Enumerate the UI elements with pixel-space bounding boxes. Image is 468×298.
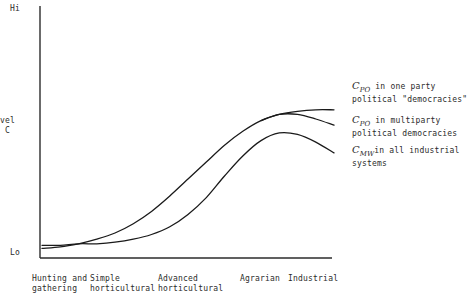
annotation-line1: in all industrial <box>374 146 459 155</box>
x-axis-tick-label-advanced-horticultural: Advancedhorticultural <box>158 274 223 293</box>
series-annotation-cpo-one-party: CPO in one partypolitical "democracies" <box>352 81 467 105</box>
x-tick-line1: Simple <box>90 274 120 283</box>
symbol-subscript: PO <box>360 86 370 94</box>
series-line-cmw <box>42 132 334 245</box>
symbol-letter: C <box>352 114 360 125</box>
y-axis-title: evelf C <box>0 116 15 136</box>
x-axis-tick-label-hunting-and-gathering: Hunting andgathering <box>32 274 87 293</box>
series-symbol-c: CPO <box>352 114 370 125</box>
x-tick-line1: Industrial <box>288 274 338 283</box>
y-axis-title-line1: evel <box>0 116 15 125</box>
series-symbol-c: CPO <box>352 80 370 91</box>
x-tick-line1: Agrarian <box>240 274 280 283</box>
x-axis-tick-label-industrial: Industrial <box>288 274 338 284</box>
x-axis-tick-label-agrarian: Agrarian <box>240 274 280 284</box>
x-tick-line2: horticultural <box>158 284 223 293</box>
series-annotation-cpo-multiparty: CPO in multipartypolitical democracies <box>352 115 457 139</box>
symbol-letter: C <box>352 144 360 155</box>
x-tick-line1: Advanced <box>158 274 198 283</box>
y-axis-top-tick-label: Hi <box>10 4 20 14</box>
x-tick-line2: horticultural <box>90 284 155 293</box>
symbol-letter: C <box>352 80 360 91</box>
series-line-cpo-one-party <box>42 110 334 249</box>
x-axis-tick-label-simple-horticultural: Simplehorticultural <box>90 274 155 293</box>
y-axis-bottom-tick-label: Lo <box>10 248 20 258</box>
annotation-line2: systems <box>352 159 387 168</box>
x-tick-line2: gathering <box>32 284 77 293</box>
series-symbol-c: CMW <box>352 144 374 155</box>
series-line-cpo-multiparty <box>261 114 334 125</box>
chart-figure: Hi Lo evelf C Hunting andgathering Simpl… <box>0 0 468 298</box>
annotation-line1: in one party <box>370 82 435 91</box>
series-annotation-cmw: CMWin all industrialsystems <box>352 145 460 169</box>
annotation-line2: political democracies <box>352 129 457 138</box>
x-tick-line1: Hunting and <box>32 274 87 283</box>
symbol-subscript: PO <box>360 120 370 128</box>
annotation-line1: in multiparty <box>370 116 440 125</box>
symbol-subscript: MW <box>360 150 374 158</box>
y-axis-title-line2: f C <box>0 126 10 135</box>
annotation-line2: political "democracies" <box>352 95 467 104</box>
